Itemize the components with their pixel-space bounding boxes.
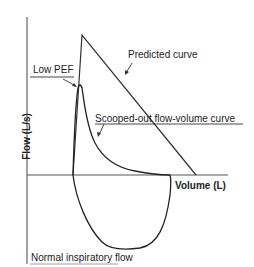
scooped-curve [73,85,170,175]
y-axis-label: Flow (L/s) [21,107,32,167]
scooped-curve-label: Scooped-out flow-volume curve [95,113,235,124]
normal-inspiratory-label: Normal inspiratory flow [31,252,133,263]
flow-volume-diagram [0,0,254,267]
inspiratory-curve [73,175,171,249]
predicted-curve-label: Predicted curve [128,49,197,60]
low-pef-arrowhead [72,83,77,87]
low-pef-label: Low PEF [33,64,74,75]
x-axis-label: Volume (L) [175,180,226,191]
